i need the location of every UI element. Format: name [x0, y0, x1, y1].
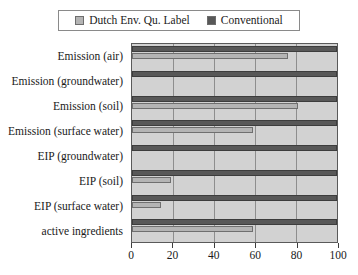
bar-row-emission-surface-water: [132, 118, 337, 143]
chart-legend: Dutch Env. Qu. Label Conventional: [58, 10, 300, 31]
bar-row-eip-soil: [132, 168, 337, 193]
y-axis-label-emission-air: Emission (air): [0, 43, 127, 68]
bar-conventional-active-ingredients: [132, 219, 337, 225]
bar-conventional-emission-soil: [132, 96, 337, 102]
legend-label-conventional: Conventional: [221, 15, 283, 27]
x-tick-80: [297, 243, 298, 248]
y-axis-label-active-ingredients: active ingredients: [0, 218, 127, 243]
legend-label-dutch: Dutch Env. Qu. Label: [89, 15, 190, 27]
legend-item-conventional: Conventional: [207, 15, 283, 27]
x-tick-label-100: 100: [329, 249, 346, 261]
x-axis-tick-labels: 020406080100: [131, 249, 338, 265]
bar-row-active-ingredients: [132, 217, 337, 242]
bar-dutch-emission-air: [132, 53, 288, 59]
bar-dutch-emission-surface-water: [132, 127, 253, 133]
y-axis-label-eip-soil: EIP (soil): [0, 168, 127, 193]
bar-row-eip-surface-water: [132, 193, 337, 218]
legend-item-dutch-env-qu-label: Dutch Env. Qu. Label: [75, 15, 190, 27]
y-axis-category-labels: Emission (air) Emission (groundwater) Em…: [0, 43, 127, 243]
bar-conventional-emission-groundwater: [132, 71, 337, 77]
bar-dutch-eip-surface-water: [132, 202, 161, 208]
y-axis-label-emission-surface-water: Emission (surface water): [0, 118, 127, 143]
x-tick-40: [214, 243, 215, 248]
bar-conventional-emission-surface-water: [132, 120, 337, 126]
bar-conventional-eip-groundwater: [132, 145, 337, 151]
y-axis-label-eip-groundwater: EIP (groundwater): [0, 143, 127, 168]
bar-rows: [132, 44, 337, 242]
y-axis-label-eip-surface-water: EIP (surface water): [0, 193, 127, 218]
bar-dutch-active-ingredients: [132, 226, 253, 232]
y-axis-label-emission-groundwater: Emission (groundwater): [0, 68, 127, 93]
x-tick-label-40: 40: [208, 249, 220, 261]
bar-row-emission-soil: [132, 94, 337, 119]
legend-swatch-icon-conventional: [207, 16, 216, 25]
y-axis-label-emission-soil: Emission (soil): [0, 93, 127, 118]
bar-conventional-eip-soil: [132, 170, 337, 176]
x-tick-0: [131, 243, 132, 248]
x-tick-60: [255, 243, 256, 248]
bar-row-emission-groundwater: [132, 69, 337, 94]
x-tick-20: [172, 243, 173, 248]
x-tick-label-20: 20: [167, 249, 179, 261]
bar-row-emission-air: [132, 44, 337, 69]
plot-area: [131, 43, 338, 243]
x-tick-label-0: 0: [128, 249, 134, 261]
x-tick-100: [338, 243, 339, 248]
bar-conventional-emission-air: [132, 46, 337, 52]
x-tick-label-60: 60: [249, 249, 261, 261]
bar-conventional-eip-surface-water: [132, 195, 337, 201]
bar-chart: Dutch Env. Qu. Label Conventional Emissi…: [0, 0, 358, 275]
bar-row-eip-groundwater: [132, 143, 337, 168]
bar-dutch-eip-soil: [132, 177, 171, 183]
x-tick-label-80: 80: [291, 249, 303, 261]
legend-swatch-icon-dutch: [75, 16, 84, 25]
bar-dutch-emission-soil: [132, 103, 298, 109]
